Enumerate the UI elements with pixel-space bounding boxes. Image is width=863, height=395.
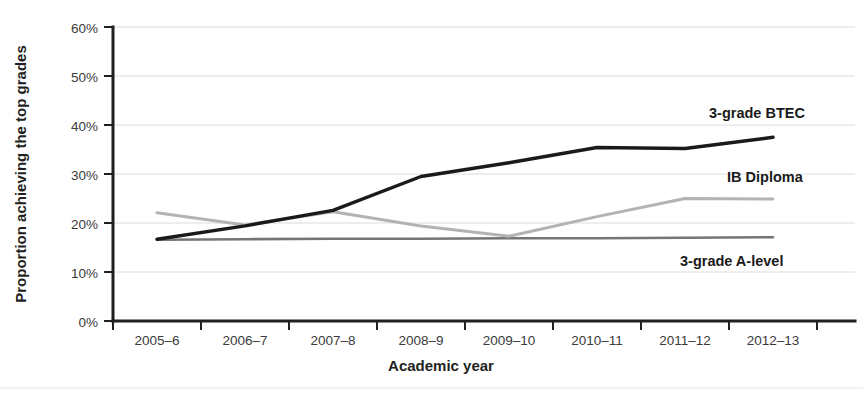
x-tick-label-2011-12: 2011–12 bbox=[659, 333, 711, 348]
x-tick-label-2009-10: 2009–10 bbox=[483, 333, 536, 348]
y-tick-label-50: 50% bbox=[71, 70, 98, 85]
series-annotations: 3-grade BTEC IB Diploma 3-grade A-level bbox=[680, 105, 805, 269]
chart-figure: 60% 50% 40% 30% 20% 10% 0% Proportion ac… bbox=[0, 0, 863, 395]
series-line-3-grade-btec bbox=[157, 137, 773, 239]
y-axis: 60% 50% 40% 30% 20% 10% 0% Proportion ac… bbox=[12, 21, 113, 330]
x-tick-label-2007-8: 2007–8 bbox=[310, 333, 355, 348]
x-axis: 2005–6 2006–7 2007–8 2008–9 2009–10 2010… bbox=[113, 321, 855, 374]
x-tick-label-2010-11: 2010–11 bbox=[571, 333, 623, 348]
x-tick-label-2008-9: 2008–9 bbox=[398, 333, 443, 348]
gridlines bbox=[113, 27, 855, 272]
x-tick-label-2006-7: 2006–7 bbox=[222, 333, 267, 348]
series-group bbox=[157, 137, 773, 239]
y-tick-label-10: 10% bbox=[71, 266, 98, 281]
x-tick-label-2005-6: 2005–6 bbox=[134, 333, 179, 348]
y-tick-label-40: 40% bbox=[71, 119, 98, 134]
series-label-3-grade-btec: 3-grade BTEC bbox=[709, 105, 805, 121]
series-label-3-grade-a-level: 3-grade A-level bbox=[680, 253, 783, 269]
y-tick-label-60: 60% bbox=[71, 21, 98, 36]
y-tick-label-20: 20% bbox=[71, 217, 98, 232]
x-tick-label-2012-13: 2012–13 bbox=[747, 333, 800, 348]
y-axis-title: Proportion achieving the top grades bbox=[12, 45, 29, 303]
y-tick-label-30: 30% bbox=[71, 168, 98, 183]
series-label-ib-diploma: IB Diploma bbox=[727, 169, 804, 185]
series-line-ib-diploma bbox=[157, 199, 773, 237]
x-axis-title: Academic year bbox=[388, 357, 494, 374]
y-tick-label-0: 0% bbox=[78, 315, 98, 330]
series-line-3-grade-a-level bbox=[157, 237, 773, 240]
line-chart: 60% 50% 40% 30% 20% 10% 0% Proportion ac… bbox=[0, 0, 863, 395]
